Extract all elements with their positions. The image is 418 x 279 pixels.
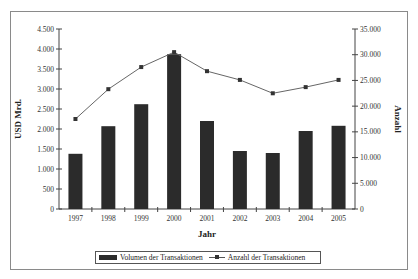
y-axis-title: USD Mrd. xyxy=(13,99,23,139)
bar xyxy=(233,151,247,209)
y2-tick-label: 30.000 xyxy=(360,50,381,59)
y-tick-label: 1.500 xyxy=(37,145,54,154)
right-y-axis: 05.00010.00015.00020.00025.00030.00035.0… xyxy=(352,25,381,214)
bar xyxy=(134,104,148,209)
y2-tick-label: 5.000 xyxy=(360,179,377,188)
legend-label-count: Anzahl der Transaktionen xyxy=(228,253,306,262)
legend-item-count: Anzahl der Transaktionen xyxy=(209,253,306,262)
y2-tick-label: 0 xyxy=(360,205,364,214)
line-marker xyxy=(304,85,308,89)
combo-chart: 05001.0001.5002.0002.5003.0003.5004.0004… xyxy=(0,0,418,279)
bar xyxy=(167,54,181,209)
bar-series xyxy=(68,54,345,209)
y-tick-label: 1.000 xyxy=(37,165,54,174)
y-tick-label: 4.500 xyxy=(37,25,54,34)
y2-tick-label: 35.000 xyxy=(360,25,381,34)
line-marker xyxy=(238,78,242,82)
line-marker xyxy=(139,65,143,69)
x-axis: 199719981999200020012002200320042005 xyxy=(59,207,355,223)
x-tick-label: 2004 xyxy=(298,214,313,223)
line-marker-swatch-icon xyxy=(209,255,225,260)
bar-swatch-icon xyxy=(99,255,117,260)
line-marker xyxy=(205,69,209,73)
x-tick-label: 2005 xyxy=(331,214,346,223)
line-marker xyxy=(337,78,341,82)
line-series xyxy=(73,50,340,121)
y2-tick-label: 15.000 xyxy=(360,127,381,136)
x-tick-label: 2003 xyxy=(265,214,280,223)
x-tick-label: 2002 xyxy=(232,214,247,223)
x-tick-label: 1997 xyxy=(68,214,83,223)
bar xyxy=(266,153,280,209)
left-y-axis: 05001.0001.5002.0002.5003.0003.5004.0004… xyxy=(37,25,62,214)
y-tick-label: 2.500 xyxy=(37,105,54,114)
line-marker xyxy=(271,91,275,95)
x-tick-label: 2001 xyxy=(200,214,215,223)
y-tick-label: 3.500 xyxy=(37,65,54,74)
bar xyxy=(299,131,313,209)
y2-tick-label: 25.000 xyxy=(360,76,381,85)
y-tick-label: 3.000 xyxy=(37,85,54,94)
y-tick-label: 0 xyxy=(50,205,54,214)
x-axis-title: Jahr xyxy=(198,229,216,239)
y2-axis-title: Anzahl xyxy=(393,105,403,133)
y-tick-label: 4.000 xyxy=(37,45,54,54)
y-tick-label: 2.000 xyxy=(37,125,54,134)
legend: Volumen der Transaktionen Anzahl der Tra… xyxy=(95,251,321,264)
line-marker xyxy=(73,117,77,121)
bar xyxy=(68,154,82,209)
line-marker xyxy=(172,50,176,54)
y2-tick-label: 10.000 xyxy=(360,153,381,162)
legend-item-volume: Volumen der Transaktionen xyxy=(99,253,203,262)
y2-tick-label: 20.000 xyxy=(360,102,381,111)
x-tick-label: 1998 xyxy=(101,214,116,223)
bar xyxy=(332,126,346,209)
legend-label-volume: Volumen der Transaktionen xyxy=(120,253,203,262)
bar xyxy=(200,121,214,209)
line-marker xyxy=(106,87,110,91)
bar xyxy=(101,126,115,209)
y-tick-label: 500 xyxy=(43,185,55,194)
x-tick-label: 2000 xyxy=(167,214,182,223)
x-tick-label: 1999 xyxy=(134,214,149,223)
